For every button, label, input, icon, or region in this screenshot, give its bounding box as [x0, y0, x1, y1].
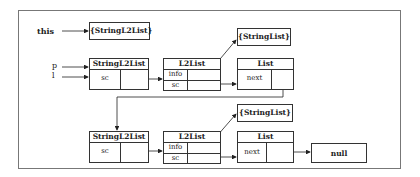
top-list-box: List next [237, 58, 294, 90]
top-list-title: List [238, 59, 293, 70]
top-list-next: next [238, 74, 271, 82]
top-stringl2list-box: StringL2List sc [89, 58, 149, 90]
null-box: null [311, 143, 367, 163]
bottom-stringlist-box: {StringList} [237, 104, 293, 122]
null-label: null [312, 149, 366, 158]
top-wrapper-title: StringL2List [90, 59, 148, 70]
top-stringlist-box: {StringList} [237, 28, 291, 46]
top-wrapper-field: sc [90, 74, 120, 82]
bottom-wrapper-field: sc [90, 147, 120, 155]
bottom-list-next: next [238, 148, 266, 156]
bottom-wrapper-title: StringL2List [90, 132, 148, 143]
l-label: l [52, 71, 55, 81]
top-node-title: L2List [164, 59, 220, 70]
top-node-sc: sc [164, 81, 187, 89]
p-label: p [52, 61, 57, 71]
this-target-box: {StringL2List} [89, 22, 150, 40]
this-label: this [37, 26, 54, 36]
bottom-list-box: List next [237, 131, 294, 163]
bottom-node-info: info [164, 143, 187, 151]
bottom-node-sc: sc [164, 154, 187, 162]
bottom-node-title: L2List [164, 132, 220, 143]
top-stringlist-label: {StringList} [238, 32, 290, 41]
bottom-stringlist-label: {StringList} [238, 108, 292, 117]
bottom-l2list-box: L2List info sc [163, 131, 221, 164]
this-target-label: {StringL2List} [90, 26, 149, 35]
bottom-stringl2list-box: StringL2List sc [89, 131, 149, 163]
top-node-info: info [164, 70, 187, 78]
top-l2list-box: L2List info sc [163, 58, 221, 91]
